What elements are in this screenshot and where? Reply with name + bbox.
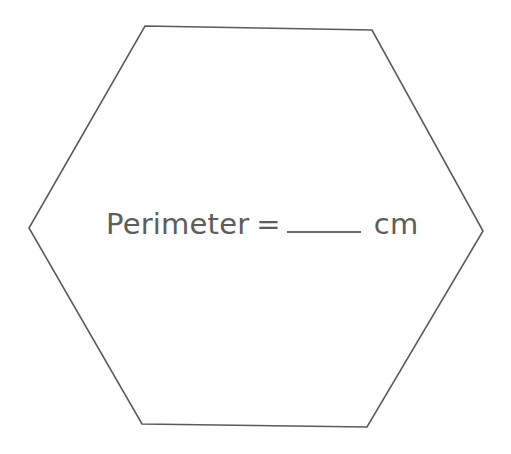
perimeter-answer-blank[interactable] — [287, 231, 361, 233]
equals-sign: = — [256, 207, 281, 241]
perimeter-label-text: Perimeter — [106, 207, 249, 241]
perimeter-question: Perimeter=cm — [106, 207, 418, 241]
worksheet-canvas: Perimeter=cm — [0, 0, 511, 454]
perimeter-unit-label: cm — [374, 207, 419, 241]
